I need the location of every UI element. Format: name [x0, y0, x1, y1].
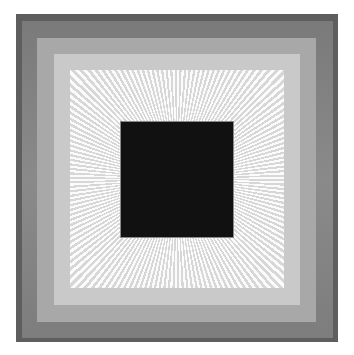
black-center-square — [120, 121, 234, 238]
